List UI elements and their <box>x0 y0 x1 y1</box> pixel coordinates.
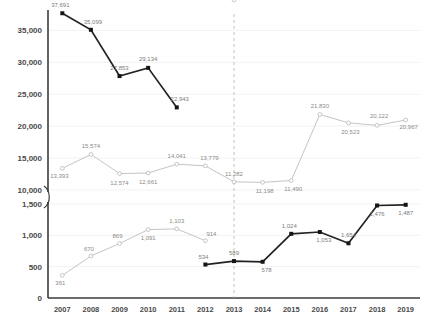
data-point-label: 1,103 <box>169 218 185 224</box>
data-point-marker[interactable] <box>289 179 293 183</box>
data-point-marker[interactable] <box>60 273 64 277</box>
data-point-marker[interactable] <box>375 204 379 208</box>
data-point-marker[interactable] <box>175 105 179 109</box>
y-axis-tick-label: 1,000 <box>22 231 43 240</box>
data-point-label: 670 <box>84 246 95 252</box>
data-point-label: 15,574 <box>82 143 101 149</box>
data-point-marker[interactable] <box>289 232 293 236</box>
data-point-marker[interactable] <box>404 203 408 207</box>
data-point-label: 12,661 <box>139 179 158 185</box>
data-point-marker[interactable] <box>146 171 150 175</box>
data-point-marker[interactable] <box>232 259 236 263</box>
data-point-marker[interactable] <box>232 180 236 184</box>
data-point-label: 1,091 <box>141 235 157 241</box>
data-point-label: 27,853 <box>110 65 129 71</box>
line-chart: 05001,0001,50010,00015,00020,00025,00030… <box>0 0 428 330</box>
data-point-marker[interactable] <box>89 153 93 157</box>
data-point-label: 361 <box>55 280 66 286</box>
data-point-label: 20,122 <box>370 113 389 119</box>
data-point-label: 1,053 <box>316 237 332 243</box>
data-point-marker[interactable] <box>203 239 207 243</box>
data-point-label: 22,943 <box>171 96 190 102</box>
data-point-label: 578 <box>262 267 273 273</box>
data-point-marker[interactable] <box>118 172 122 176</box>
data-point-label: 1,476 <box>370 211 386 217</box>
data-point-label: 20,967 <box>400 124 419 130</box>
data-point-label: 29,134 <box>139 56 158 62</box>
data-point-marker[interactable] <box>232 0 236 2</box>
data-point-marker[interactable] <box>60 166 64 170</box>
data-point-marker[interactable] <box>175 227 179 231</box>
data-point-marker[interactable] <box>404 118 408 122</box>
data-point-marker[interactable] <box>318 113 322 117</box>
y-axis-tick-label: 1,500 <box>22 200 43 209</box>
data-point-marker[interactable] <box>146 228 150 232</box>
y-axis-tick-label: 0 <box>38 294 43 303</box>
data-point-label: 11,282 <box>225 171 244 177</box>
y-axis-tick-label: 35,000 <box>18 26 43 35</box>
data-point-label: 11,198 <box>256 188 275 194</box>
data-point-marker[interactable] <box>318 230 322 234</box>
data-point-marker[interactable] <box>347 121 351 125</box>
x-axis-tick-label: 2010 <box>140 305 157 314</box>
data-point-label: 589 <box>229 250 240 256</box>
x-axis-tick-label: 2015 <box>283 305 300 314</box>
x-axis-tick-label: 2016 <box>312 305 329 314</box>
data-point-marker[interactable] <box>60 11 64 15</box>
x-axis-tick-label: 2007 <box>54 305 71 314</box>
data-point-marker[interactable] <box>203 164 207 168</box>
data-point-marker[interactable] <box>118 74 122 78</box>
y-axis-tick-label: 30,000 <box>18 58 43 67</box>
series-line-upper-dark-series <box>62 13 176 107</box>
series-line-lower-light-series <box>62 229 205 275</box>
y-axis-tick-label: 25,000 <box>18 90 43 99</box>
data-point-label: 914 <box>206 231 217 237</box>
data-point-label: 12,574 <box>110 180 129 186</box>
data-point-label: 534 <box>198 254 209 260</box>
data-point-marker[interactable] <box>118 242 122 246</box>
x-axis-tick-label: 2013 <box>226 305 243 314</box>
data-point-label: 35,099 <box>84 19 103 25</box>
y-axis-tick-label: 15,000 <box>18 154 43 163</box>
data-point-marker[interactable] <box>203 263 207 267</box>
x-axis-tick-label: 2011 <box>169 305 185 314</box>
data-point-label: 1,487 <box>398 210 414 216</box>
data-point-marker[interactable] <box>261 260 265 264</box>
data-point-marker[interactable] <box>146 66 150 70</box>
data-point-label: 14,041 <box>168 153 187 159</box>
chart-canvas: 05001,0001,50010,00015,00020,00025,00030… <box>0 0 428 330</box>
x-axis-tick-label: 2019 <box>397 305 414 314</box>
data-point-marker[interactable] <box>375 123 379 127</box>
data-point-label: 869 <box>113 233 124 239</box>
data-point-marker[interactable] <box>175 162 179 166</box>
x-axis-tick-label: 2017 <box>340 305 357 314</box>
data-point-marker[interactable] <box>261 180 265 184</box>
data-point-marker[interactable] <box>89 254 93 258</box>
data-point-marker[interactable] <box>346 241 350 245</box>
data-point-label: 37,691 <box>51 2 70 8</box>
data-point-label: 21,830 <box>311 103 330 109</box>
data-point-label: 20,523 <box>341 129 360 135</box>
x-axis-tick-label: 2008 <box>83 305 100 314</box>
x-axis-tick-label: 2014 <box>254 305 272 314</box>
x-axis-tick-label: 2009 <box>111 305 128 314</box>
data-point-label: 11,490 <box>284 186 303 192</box>
data-point-label: 1,654 <box>341 232 357 238</box>
data-point-label: 13,393 <box>50 173 69 179</box>
data-point-label: 13,779 <box>200 155 219 161</box>
y-axis-tick-label: 500 <box>29 263 43 272</box>
x-axis-tick-label: 2012 <box>197 305 214 314</box>
data-point-marker[interactable] <box>89 28 93 32</box>
data-point-label: 1,024 <box>282 223 298 229</box>
y-axis-tick-label: 20,000 <box>18 122 43 131</box>
x-axis-tick-label: 2018 <box>369 305 386 314</box>
y-axis-tick-label: 10,000 <box>18 186 43 195</box>
